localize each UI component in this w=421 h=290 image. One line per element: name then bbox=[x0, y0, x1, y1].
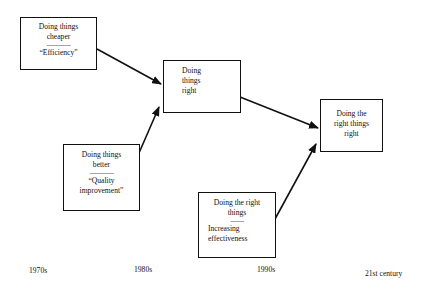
box-text: Doing bbox=[182, 66, 240, 76]
diagram-canvas: Doing things cheaper ---------------- “E… bbox=[0, 0, 421, 290]
era-label-1970s: 1970s bbox=[29, 266, 47, 275]
box-text: Doing things bbox=[21, 22, 96, 32]
era-label-1980s: 1980s bbox=[134, 265, 152, 274]
box-subtext: effectiveness bbox=[199, 234, 275, 244]
box-doing-right-things-right: Doing the right things right bbox=[320, 99, 383, 152]
box-text: Doing the right bbox=[199, 198, 275, 208]
arrow-efficiency-to-right bbox=[97, 49, 161, 84]
box-subtext: “Efficiency” bbox=[21, 48, 96, 58]
box-text: Doing the bbox=[321, 109, 382, 119]
box-text: things bbox=[199, 208, 275, 218]
arrow-effectiveness-to-right-things bbox=[275, 144, 316, 219]
era-label-21st-century: 21st century bbox=[365, 269, 402, 278]
box-effectiveness: Doing the right things --------- Increas… bbox=[198, 192, 276, 258]
box-text: right bbox=[182, 86, 240, 96]
box-efficiency: Doing things cheaper ---------------- “E… bbox=[20, 17, 97, 70]
box-text: better bbox=[64, 160, 139, 170]
arrow-quality-to-right bbox=[139, 107, 159, 153]
box-text: right bbox=[321, 129, 382, 139]
box-text: things bbox=[182, 76, 240, 86]
box-subtext: improvement” bbox=[64, 186, 139, 196]
box-subtext: Increasing bbox=[199, 224, 275, 234]
box-subtext: “Quality bbox=[64, 176, 139, 186]
box-text: right things bbox=[321, 119, 382, 129]
box-text: Doing things bbox=[64, 150, 139, 160]
box-doing-things-right: Doing things right bbox=[163, 60, 241, 113]
box-text: cheaper bbox=[21, 32, 96, 42]
era-label-1990s: 1990s bbox=[257, 265, 275, 274]
box-quality-improvement: Doing things better ---------------- “Qu… bbox=[63, 144, 140, 211]
arrow-right-to-right-things bbox=[240, 97, 318, 128]
